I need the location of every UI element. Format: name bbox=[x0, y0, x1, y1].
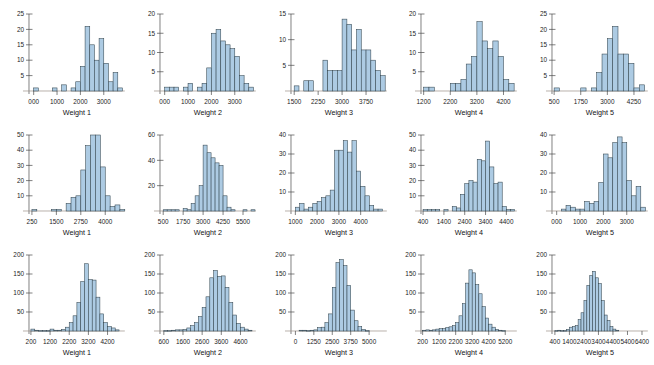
histogram-bar bbox=[210, 278, 214, 331]
histogram-bar bbox=[294, 86, 299, 91]
histogram-bar bbox=[624, 54, 629, 91]
x-tick-label: 500 bbox=[549, 98, 560, 105]
y-tick-label: 50 bbox=[148, 308, 156, 315]
x-tick-label: 4200 bbox=[482, 338, 497, 345]
x-tick-label: 1500 bbox=[49, 218, 64, 225]
y-tick-label: 40 bbox=[409, 147, 417, 154]
histogram-bar bbox=[477, 22, 482, 91]
x-tick-label: 3000 bbox=[97, 98, 112, 105]
histogram-bar bbox=[31, 329, 35, 331]
x-tick-label: 4600 bbox=[233, 338, 248, 345]
histogram-bar bbox=[566, 205, 571, 211]
histogram-bar bbox=[618, 137, 623, 211]
bars-group bbox=[299, 260, 369, 332]
histogram-bar bbox=[567, 329, 570, 331]
x-axis-title: Weight 1 bbox=[63, 228, 91, 237]
histogram-bar bbox=[338, 150, 342, 211]
y-tick-label: 50 bbox=[17, 131, 25, 138]
histogram-svg: 102030401000200030004000Weight 3 bbox=[262, 125, 393, 245]
histogram-bar bbox=[590, 203, 595, 211]
y-tick-label: 50 bbox=[409, 308, 417, 315]
histogram-bar bbox=[361, 50, 366, 91]
histogram-bar bbox=[369, 205, 373, 211]
histogram-bar bbox=[578, 320, 581, 331]
histogram-bar bbox=[486, 318, 489, 331]
histogram-bar bbox=[356, 171, 360, 211]
histogram-bar bbox=[303, 81, 308, 91]
histogram-bar bbox=[554, 88, 559, 91]
histogram-bar bbox=[206, 297, 210, 331]
x-tick-label: 400 bbox=[418, 218, 429, 225]
histogram-bar bbox=[299, 203, 303, 211]
histogram-svg: 501001502002001200220032004200Weight 1 bbox=[0, 245, 131, 365]
histogram-bar bbox=[91, 135, 96, 211]
histogram-bar bbox=[207, 68, 212, 91]
histogram-panel-weight-1-row1: 510152025000100020003000Weight 1 bbox=[0, 0, 131, 125]
histogram-bar bbox=[56, 209, 61, 211]
y-tick-label: 5 bbox=[20, 72, 24, 79]
histogram-bar bbox=[457, 208, 461, 211]
histogram-bar bbox=[86, 146, 91, 211]
histogram-bar bbox=[118, 88, 123, 91]
histogram-panel-weight-2-row3: 501001502006001600260036004600Weight 2 bbox=[131, 245, 262, 365]
x-axis-title: Weight 2 bbox=[194, 228, 222, 237]
x-axis-title: Weight 4 bbox=[455, 348, 483, 357]
histogram-bar bbox=[360, 186, 364, 211]
histogram-bar bbox=[175, 210, 179, 211]
histogram-bar bbox=[94, 60, 99, 91]
histogram-bar bbox=[71, 88, 76, 91]
x-tick-label: 5400 bbox=[621, 338, 636, 345]
histogram-bar bbox=[337, 70, 342, 91]
histogram-bar bbox=[361, 329, 365, 331]
histogram-bar bbox=[365, 196, 369, 211]
histogram-bar bbox=[346, 24, 351, 91]
x-tick-label: 3200 bbox=[470, 98, 485, 105]
histogram-bar bbox=[604, 154, 609, 211]
y-tick-label: 5 bbox=[151, 68, 155, 75]
histogram-panel-weight-3-row2: 102030401000200030004000Weight 3 bbox=[262, 125, 393, 245]
histogram-bar bbox=[65, 327, 69, 331]
bars-group bbox=[554, 26, 644, 91]
histogram-bar bbox=[443, 329, 446, 331]
x-tick-label: 4400 bbox=[500, 218, 515, 225]
histogram-bar bbox=[174, 87, 179, 91]
y-tick-label: 100 bbox=[406, 289, 417, 296]
x-tick-label: 5500 bbox=[236, 218, 251, 225]
histogram-bar bbox=[608, 39, 613, 91]
x-tick-label: 2600 bbox=[195, 338, 210, 345]
histogram-bar bbox=[32, 209, 37, 211]
x-tick-label: 250 bbox=[27, 218, 38, 225]
histogram-bar bbox=[463, 304, 466, 331]
x-tick-label: 1200 bbox=[432, 338, 447, 345]
histogram-bar bbox=[239, 76, 244, 91]
histogram-bar bbox=[81, 170, 86, 211]
histogram-bar bbox=[304, 209, 308, 211]
histogram-bar bbox=[306, 331, 310, 332]
histogram-bar bbox=[85, 264, 89, 331]
histogram-bar bbox=[469, 270, 472, 331]
histogram-svg: 510151500225030003750Weight 3 bbox=[262, 0, 393, 125]
y-tick-label: 10 bbox=[409, 49, 417, 56]
histogram-bar bbox=[440, 329, 443, 331]
histogram-bar bbox=[328, 314, 332, 331]
y-tick-label: 15 bbox=[148, 30, 156, 37]
bars-group bbox=[555, 271, 619, 331]
histogram-bar bbox=[562, 209, 567, 211]
histogram-bar bbox=[343, 266, 347, 331]
histogram-bar bbox=[243, 210, 247, 211]
histogram-bar bbox=[85, 26, 90, 91]
histogram-bar bbox=[503, 206, 507, 211]
x-tick-label: 2200 bbox=[444, 98, 459, 105]
histogram-bar bbox=[558, 330, 561, 331]
histogram-bar bbox=[599, 183, 604, 211]
y-tick-label: 20 bbox=[148, 10, 156, 17]
histogram-bar bbox=[183, 329, 187, 331]
x-tick-label: 1400 bbox=[563, 338, 578, 345]
x-tick-label: 200 bbox=[26, 338, 37, 345]
histogram-bar bbox=[436, 209, 440, 211]
x-axis-title: Weight 3 bbox=[324, 228, 352, 237]
y-tick-label: 25 bbox=[540, 10, 548, 17]
histogram-bar bbox=[347, 285, 351, 331]
bars-group bbox=[294, 19, 385, 91]
histogram-bar bbox=[321, 198, 325, 211]
